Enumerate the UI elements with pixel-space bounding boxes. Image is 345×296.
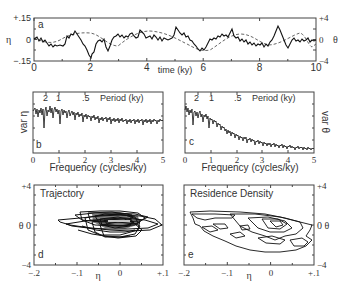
e-xtick-0: 0	[269, 268, 274, 278]
e-xlabel-eta: η	[246, 270, 251, 281]
panel-e-label: e	[188, 249, 194, 260]
eta-series-line	[34, 26, 316, 58]
panel-b-label: b	[36, 139, 42, 150]
figure: a +.15 0 −.15 η +4 0 −4 θ 0 2 4 6 8 10 t…	[0, 0, 345, 296]
d-xlabel-eta: η	[95, 270, 100, 281]
a-ytick-right-top: +4	[319, 13, 329, 23]
c-xlabel: Frequency (cycles/ky)	[201, 162, 298, 173]
panel-e-title: Residence Density	[190, 188, 273, 199]
d-xtick-p1: +.1	[157, 268, 169, 278]
d-ytick-mid: θ 0	[19, 220, 31, 231]
a-xtick-8: 8	[257, 62, 263, 73]
panel-a: a +.15 0 −.15 η +4 0 −4 θ 0 2 4 6 8 10 t…	[6, 13, 338, 75]
panel-e: Residence Density e +4 0 θ −4 −.2 −.1 η …	[178, 181, 329, 281]
b-period-1: 1	[56, 93, 61, 103]
a-xtick-4: 4	[144, 62, 150, 73]
e-ytick-mid: 0 θ	[317, 220, 330, 231]
c-period-1: 1	[209, 93, 214, 103]
panel-a-frame	[34, 18, 316, 61]
a-ytick-right-mid: 0	[319, 35, 324, 45]
panel-a-label: a	[38, 19, 44, 30]
a-ytick-bot: −.15	[13, 56, 31, 66]
a-xlabel: time (ky)	[158, 65, 193, 75]
b-xlabel: Frequency (cycles/ky)	[49, 162, 146, 173]
a-xtick-6: 6	[200, 62, 206, 73]
d-xtick-m2: −.2	[28, 268, 40, 278]
a-xtick-0: 0	[31, 62, 37, 73]
a-ytick-mid: 0	[26, 35, 31, 45]
b-period-05: .5	[82, 93, 90, 103]
e-ytick-top: +4	[317, 181, 327, 191]
b-ylabel: var η	[18, 111, 29, 133]
d-xtick-0: 0	[118, 268, 123, 278]
panel-c-label: c	[189, 136, 194, 147]
a-xtick-2: 2	[88, 62, 94, 73]
d-xtick-m1: −.1	[71, 268, 83, 278]
c-xtick-0: 0	[183, 155, 188, 165]
b-period-label: Period (ky)	[100, 93, 144, 103]
b-period-2: 2	[43, 93, 48, 103]
e-xtick-m2: −.2	[178, 268, 190, 278]
var-theta-spectrum	[185, 106, 314, 150]
panel-d-title: Trajectory	[40, 188, 84, 199]
c-period-2: 2	[194, 93, 199, 103]
panel-c: 2 1 .5 Period (ky) c var θ 0 1 2 3 4 5 F…	[183, 92, 331, 173]
e-xtick-p1: +.1	[308, 268, 320, 278]
c-xtick-5: 5	[312, 155, 317, 165]
a-ylabel-eta: η	[6, 34, 11, 45]
residence-contours	[190, 211, 312, 252]
panel-a-ticks	[34, 18, 316, 61]
b-xtick-5: 5	[161, 155, 166, 165]
a-ylabel-theta: θ	[333, 34, 338, 45]
panel-d-label: d	[38, 249, 44, 260]
panel-b: 2 1 .5 Period (ky) b var η 0 1 2 3 4 5 F…	[18, 92, 166, 173]
d-ytick-top: +4	[21, 181, 31, 191]
a-xtick-10: 10	[310, 62, 322, 73]
c-period-05: .5	[234, 93, 242, 103]
c-ylabel: var θ	[320, 111, 331, 134]
b-xtick-0: 0	[31, 155, 36, 165]
c-period-label: Period (ky)	[252, 93, 296, 103]
e-xtick-m1: −.1	[221, 268, 233, 278]
var-eta-spectrum	[33, 106, 163, 128]
panel-d: Trajectory d +4 θ 0 −4 −.2 −.1 η 0 +.1	[19, 181, 169, 281]
a-ytick-top: +.15	[13, 13, 31, 23]
